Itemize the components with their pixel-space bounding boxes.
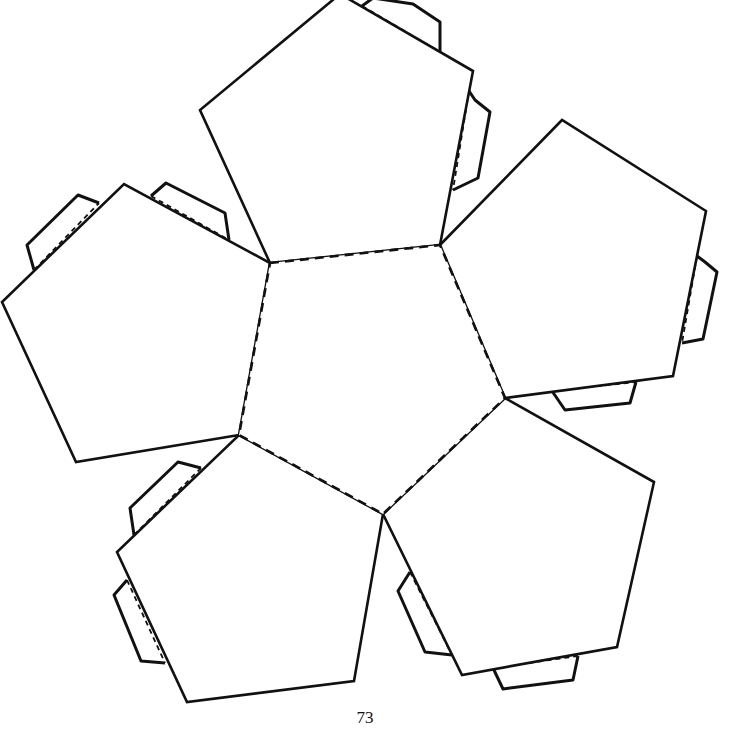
face-left	[2, 184, 270, 462]
dodecahedron-net-diagram	[0, 0, 731, 730]
page-number: 73	[340, 708, 390, 728]
